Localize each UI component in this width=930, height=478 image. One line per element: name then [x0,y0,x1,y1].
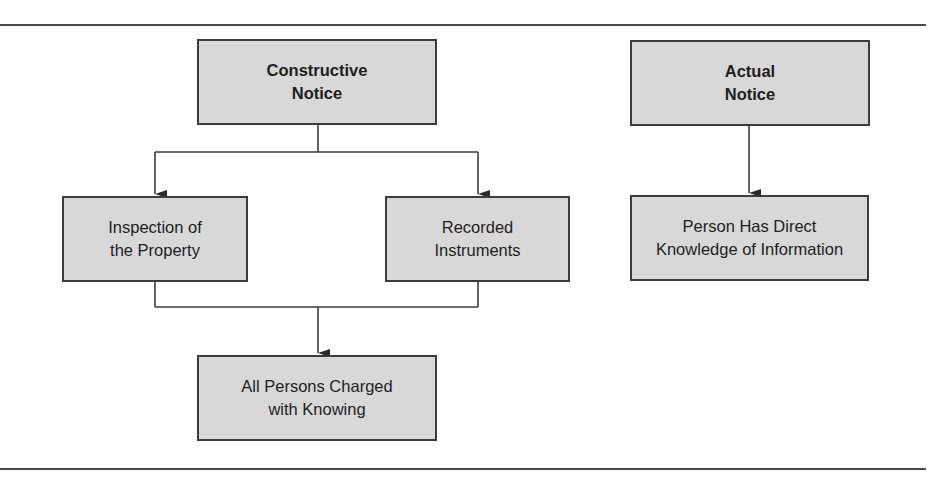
node-constructive-notice: Constructive Notice [197,39,437,125]
node-inspection-of-property: Inspection of the Property [62,196,248,282]
node-label-line1: All Persons Charged [241,375,392,398]
node-label-line1: Person Has Direct [683,215,817,238]
node-label-line1: Actual [725,60,775,83]
node-all-persons-charged: All Persons Charged with Knowing [197,355,437,441]
node-actual-notice: Actual Notice [630,40,870,126]
node-recorded-instruments: Recorded Instruments [385,196,570,282]
node-direct-knowledge: Person Has Direct Knowledge of Informati… [630,195,869,281]
node-label-line2: Notice [725,83,775,106]
node-label-line1: Inspection of [108,216,202,239]
node-label-line2: with Knowing [268,398,365,421]
node-label-line1: Recorded [442,216,514,239]
node-label-line2: Instruments [434,239,520,262]
node-label-line2: Knowledge of Information [656,238,843,261]
node-label-line2: the Property [110,239,200,262]
node-label-line1: Constructive [267,59,368,82]
node-label-line2: Notice [292,82,342,105]
